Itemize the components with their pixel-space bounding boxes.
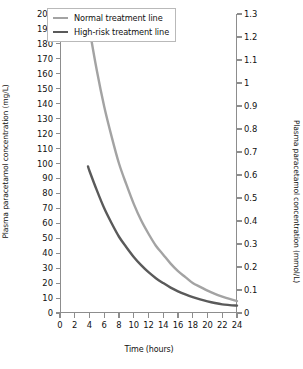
legend-swatch-icon <box>53 17 68 20</box>
y-tick-right <box>237 220 242 221</box>
x-tick <box>89 313 90 318</box>
y-tick-label-right: 0.7 <box>244 147 257 157</box>
y-tick-right <box>237 13 242 14</box>
y-tick-label-right: 0.3 <box>244 239 257 249</box>
y-tick-label-left: 0 <box>48 308 53 318</box>
y-tick-right <box>237 36 242 37</box>
x-tick-label: 12 <box>143 320 154 330</box>
y-tick-right <box>237 243 242 244</box>
plot-area: 0102030405060708090100110120130140150160… <box>60 14 237 313</box>
x-axis-title: Time (hours) <box>60 345 238 354</box>
x-tick <box>222 313 223 318</box>
y-tick-label-right: 1.3 <box>244 9 257 19</box>
x-tick <box>207 313 208 318</box>
x-tick-label: 8 <box>116 320 121 330</box>
x-tick-label: 22 <box>217 320 228 330</box>
x-tick <box>163 313 164 318</box>
y-tick-label-left: 120 <box>37 129 53 139</box>
x-tick <box>104 313 105 318</box>
y-tick-label-right: 0.9 <box>244 101 257 111</box>
x-tick-label: 14 <box>158 320 169 330</box>
x-tick <box>192 313 193 318</box>
legend-swatch-icon <box>53 31 68 34</box>
x-tick <box>148 313 149 318</box>
y-tick-label-left: 60 <box>42 218 53 228</box>
y-tick-label-left: 170 <box>37 54 53 64</box>
x-tick <box>118 313 119 318</box>
y-tick-label-left: 70 <box>42 203 53 213</box>
legend-item-label: Normal treatment line <box>74 13 163 23</box>
y-tick-label-left: 20 <box>42 278 53 288</box>
x-tick <box>177 313 178 318</box>
y-tick-label-left: 10 <box>42 293 53 303</box>
y-tick-label-right: 0.1 <box>244 285 257 295</box>
y-tick-label-left: 90 <box>42 173 53 183</box>
y-tick-label-left: 50 <box>42 233 53 243</box>
x-tick-label: 4 <box>87 320 92 330</box>
x-tick-label: 20 <box>202 320 213 330</box>
y-tick-right <box>237 151 242 152</box>
legend-item[interactable]: Normal treatment line <box>53 13 169 23</box>
x-tick <box>74 313 75 318</box>
chart-container: Plasma paracetamol concentration (mg/L) … <box>0 0 303 369</box>
x-tick-label: 24 <box>232 320 243 330</box>
y-tick-label-right: 0 <box>244 308 249 318</box>
y-axis-right-title: Plasma paracetamol concentration (mmol/L… <box>290 52 302 351</box>
y-tick-label-right: 0.4 <box>244 216 257 226</box>
y-tick-label-right: 1.2 <box>244 32 257 42</box>
legend-item[interactable]: High-risk treatment line <box>53 27 169 37</box>
y-tick-right <box>237 289 242 290</box>
y-tick-right <box>237 174 242 175</box>
y-tick-label-left: 40 <box>42 248 53 258</box>
y-tick-right <box>237 128 242 129</box>
y-tick-label-left: 150 <box>37 84 53 94</box>
y-tick-label-right: 0.5 <box>244 193 257 203</box>
x-tick-label: 2 <box>72 320 77 330</box>
y-tick-right <box>237 105 242 106</box>
y-tick-label-right: 0.2 <box>244 262 257 272</box>
y-axis-left-title: Plasma paracetamol concentration (mg/L) <box>0 12 12 311</box>
y-tick-label-left: 140 <box>37 99 53 109</box>
x-tick <box>59 313 60 318</box>
y-tick-label-right: 1.1 <box>244 55 257 65</box>
x-tick-label: 10 <box>128 320 139 330</box>
x-tick-label: 0 <box>57 320 62 330</box>
x-tick <box>133 313 134 318</box>
y-tick-right <box>237 197 242 198</box>
y-tick-label-left: 80 <box>42 188 53 198</box>
y-tick-right <box>237 312 242 313</box>
x-tick-label: 18 <box>187 320 198 330</box>
x-tick-label: 16 <box>173 320 184 330</box>
y-tick-right <box>237 82 242 83</box>
data-curves <box>60 14 237 313</box>
y-tick-label-left: 130 <box>37 114 53 124</box>
legend-item-label: High-risk treatment line <box>74 27 169 37</box>
y-tick-label-left: 110 <box>37 144 53 154</box>
x-tick <box>236 313 237 318</box>
y-tick-label-right: 0.6 <box>244 170 257 180</box>
y-tick-right <box>237 59 242 60</box>
y-tick-label-right: 1 <box>244 78 249 88</box>
y-tick-label-left: 100 <box>37 159 53 169</box>
y-tick-right <box>237 266 242 267</box>
y-tick-label-left: 160 <box>37 69 53 79</box>
chart-legend: Normal treatment lineHigh-risk treatment… <box>47 8 176 42</box>
y-tick-label-left: 30 <box>42 263 53 273</box>
line-high-risk-treatment-line <box>88 166 237 305</box>
y-tick-label-right: 0.8 <box>244 124 257 134</box>
line-normal-treatment-line <box>87 14 237 301</box>
x-tick-label: 6 <box>102 320 107 330</box>
